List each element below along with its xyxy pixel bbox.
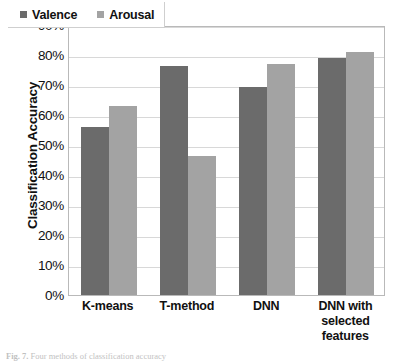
x-axis-tick-label: K-means xyxy=(68,299,147,314)
y-axis-tick-labels: 90%80%70%60%50%40%30%20%10%0% xyxy=(22,20,64,300)
bar-arousal xyxy=(188,156,216,296)
x-axis-tick-label: DNN xyxy=(227,299,306,314)
y-axis-tick-label: 20% xyxy=(22,229,64,243)
legend-swatch-icon xyxy=(97,11,104,18)
x-axis-tick-label-line: DNN xyxy=(227,299,306,314)
bar-valence xyxy=(239,87,267,296)
y-axis-tick-label: 50% xyxy=(22,139,64,153)
bar-group xyxy=(148,27,227,295)
bar-arousal xyxy=(109,106,137,295)
figure-caption: Fig. 7. Four methods of classification a… xyxy=(6,351,402,361)
bar-group xyxy=(307,27,385,295)
legend-entry-arousal: Arousal xyxy=(97,8,154,22)
x-axis-tick-label-line: features xyxy=(306,329,385,344)
y-axis-tick-label: 40% xyxy=(22,169,64,183)
x-axis-tick-label: DNN withselectedfeatures xyxy=(306,299,385,343)
x-axis-tick-label-line: K-means xyxy=(68,299,147,314)
legend-label: Arousal xyxy=(109,8,154,22)
bar-group xyxy=(228,27,307,295)
plot-area xyxy=(68,26,385,296)
bars-layer xyxy=(69,27,384,295)
y-axis-tick-label: 10% xyxy=(22,259,64,273)
x-axis-tick-label-line: selected xyxy=(306,314,385,329)
caption-text: Four methods of classification accuracy xyxy=(31,351,166,361)
bar-group xyxy=(69,27,148,295)
x-axis-tick-label-line: DNN with xyxy=(306,299,385,314)
figure-bar-chart: Classification Accuracy 90%80%70%60%50%4… xyxy=(0,0,402,361)
caption-label: Fig. 7. xyxy=(6,351,28,361)
bar-arousal xyxy=(267,64,295,295)
x-axis-tick-labels: K-meansT-methodDNNDNN withselectedfeatur… xyxy=(68,299,385,354)
x-axis-tick-label: T-method xyxy=(147,299,226,314)
y-axis-tick-label: 60% xyxy=(22,109,64,123)
legend-entry-valence: Valence xyxy=(20,8,77,22)
legend-label: Valence xyxy=(32,8,77,22)
y-axis-tick-label: 30% xyxy=(22,199,64,213)
chart-legend: ValenceArousal xyxy=(8,2,165,28)
bar-valence xyxy=(160,66,188,296)
y-axis-tick-label: 0% xyxy=(22,289,64,303)
bar-valence xyxy=(81,127,109,295)
y-axis-tick-label: 80% xyxy=(22,49,64,63)
y-axis-tick-label: 70% xyxy=(22,79,64,93)
x-axis-tick-label-line: T-method xyxy=(147,299,226,314)
bar-valence xyxy=(318,58,346,295)
bar-arousal xyxy=(346,52,374,295)
legend-swatch-icon xyxy=(20,11,27,18)
